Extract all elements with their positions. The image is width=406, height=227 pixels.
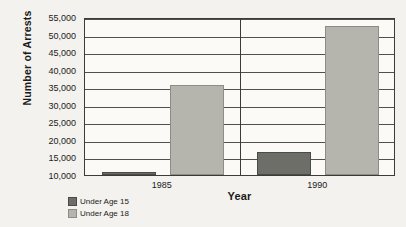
y-axis-tick-label: 15,000 (24, 154, 76, 163)
x-axis-tick-label: 1985 (127, 180, 197, 190)
bar (170, 85, 224, 175)
bar (325, 26, 379, 175)
x-axis-tick-label: 1990 (282, 180, 352, 190)
legend-item: Under Age 15 (68, 196, 129, 207)
y-axis-tick-label: 10,000 (24, 172, 76, 181)
y-axis-tick-label: 55,000 (24, 14, 76, 23)
y-axis-tick-label: 25,000 (24, 119, 76, 128)
y-axis-tick-label: 40,000 (24, 67, 76, 76)
y-axis-tick-label: 35,000 (24, 84, 76, 93)
y-axis-tick-label: 30,000 (24, 102, 76, 111)
group-divider (240, 19, 241, 175)
bar (257, 152, 311, 175)
bar (102, 172, 156, 175)
plot-area (84, 18, 395, 176)
y-axis-tick-label: 20,000 (24, 137, 76, 146)
x-axis-title: Year (84, 190, 395, 202)
y-axis-tick-label: 45,000 (24, 49, 76, 58)
y-axis-tick-label: 50,000 (24, 32, 76, 41)
legend-label: Under Age 15 (80, 197, 129, 206)
legend-label: Under Age 18 (80, 209, 129, 218)
chart-legend: Under Age 15Under Age 18 (68, 196, 129, 220)
legend-swatch (68, 209, 77, 218)
legend-swatch (68, 197, 77, 206)
legend-item: Under Age 18 (68, 208, 129, 219)
bar-chart-figure: Number of Arrests 55,00050,00045,00040,0… (0, 0, 406, 227)
